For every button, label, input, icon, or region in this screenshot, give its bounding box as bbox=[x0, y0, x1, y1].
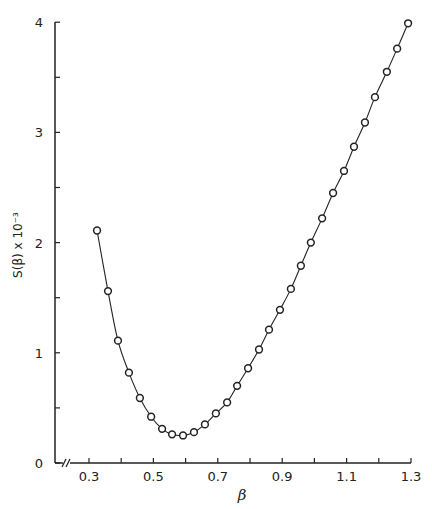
data-point-marker bbox=[105, 288, 112, 295]
x-tick-label: 1.1 bbox=[336, 469, 357, 484]
data-point-marker bbox=[394, 45, 401, 52]
data-point-marker bbox=[224, 399, 231, 406]
data-point-marker bbox=[256, 346, 263, 353]
chart: 0.30.50.70.91.11.301234 β S(β) x 10⁻³ bbox=[0, 0, 432, 509]
data-point-marker bbox=[136, 395, 143, 402]
x-tick-label: 0.7 bbox=[207, 469, 228, 484]
data-point-marker bbox=[115, 337, 122, 344]
x-tick-label: 0.3 bbox=[79, 469, 100, 484]
data-point-marker bbox=[245, 365, 252, 372]
data-point-marker bbox=[307, 239, 314, 246]
data-point-marker bbox=[94, 227, 101, 234]
data-markers bbox=[94, 20, 412, 439]
x-tick-label: 0.5 bbox=[143, 469, 164, 484]
data-point-marker bbox=[351, 143, 358, 150]
y-tick-label: 1 bbox=[35, 346, 43, 361]
data-point-marker bbox=[297, 262, 304, 269]
data-point-marker bbox=[330, 190, 337, 197]
x-tick-label: 1.3 bbox=[401, 469, 422, 484]
y-tick-label: 2 bbox=[35, 236, 43, 251]
x-tick-label: 0.9 bbox=[272, 469, 293, 484]
data-point-marker bbox=[277, 306, 284, 313]
data-point-marker bbox=[319, 215, 326, 222]
data-curve bbox=[97, 23, 408, 435]
data-point-marker bbox=[372, 94, 379, 101]
y-axis-label: S(β) x 10⁻³ bbox=[11, 212, 25, 278]
data-point-marker bbox=[126, 369, 133, 376]
data-point-marker bbox=[362, 119, 369, 126]
data-point-marker bbox=[405, 20, 412, 27]
data-point-marker bbox=[169, 431, 176, 438]
data-point-marker bbox=[202, 421, 209, 428]
axis-break-mark bbox=[66, 459, 70, 467]
data-point-marker bbox=[383, 68, 390, 75]
series-line bbox=[97, 23, 408, 435]
data-point-marker bbox=[234, 382, 241, 389]
y-tick-label: 3 bbox=[35, 125, 43, 140]
data-point-marker bbox=[180, 432, 187, 439]
y-tick-label: 4 bbox=[35, 15, 43, 30]
x-axis-label: β bbox=[237, 486, 247, 504]
data-point-marker bbox=[159, 425, 166, 432]
axes: 0.30.50.70.91.11.301234 bbox=[35, 15, 422, 484]
data-point-marker bbox=[287, 285, 294, 292]
data-point-marker bbox=[148, 413, 155, 420]
data-point-marker bbox=[191, 429, 198, 436]
data-point-marker bbox=[266, 326, 273, 333]
data-point-marker bbox=[212, 410, 219, 417]
y-tick-label: 0 bbox=[35, 456, 43, 471]
data-point-marker bbox=[341, 168, 348, 175]
